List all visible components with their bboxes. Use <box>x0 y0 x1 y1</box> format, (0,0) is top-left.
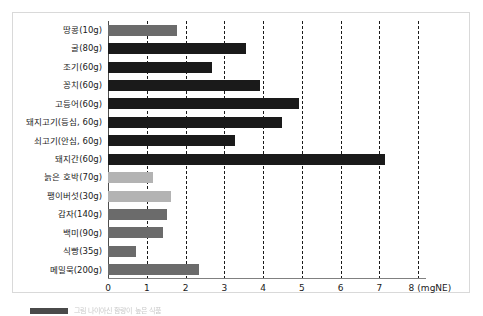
bar <box>108 43 246 54</box>
category-label: 조기(60g) <box>63 58 102 76</box>
x-tick-7: 7 <box>376 283 382 293</box>
bar <box>108 264 199 275</box>
category-label: 식빵(35g) <box>63 242 102 260</box>
x-tick-1: 1 <box>144 283 150 293</box>
bar <box>108 191 171 202</box>
x-tick-value: 0 <box>105 283 111 293</box>
x-tick-value: 1 <box>144 283 150 293</box>
category-label: 팽이버섯(30g) <box>47 187 102 205</box>
x-axis-unit-label: (mgNE) <box>417 283 451 293</box>
category-label: 백미(90g) <box>63 224 102 242</box>
bar <box>108 172 153 183</box>
bar-row: 팽이버섯(30g) <box>108 187 426 205</box>
caption-swatch <box>30 308 68 314</box>
caption-text: 그림 나이아신 함량이 높은 식품 <box>74 305 161 315</box>
bar-row: 굴(80g) <box>108 39 426 57</box>
bar-row: 돼지간(60g) <box>108 150 426 168</box>
category-label: 쇠고기(안심, 60g) <box>34 132 102 150</box>
x-tick-value: 4 <box>260 283 266 293</box>
bar-row: 늙은 호박(70g) <box>108 168 426 186</box>
plot-area: 땅콩(10g)굴(80g)조기(60g)꽁치(60g)고등어(60g)돼지고기(… <box>108 21 426 279</box>
x-tick-8: 8(mgNE) <box>409 283 452 293</box>
x-tick-value: 6 <box>338 283 344 293</box>
category-label: 돼지간(60g) <box>55 150 102 168</box>
x-tick-4: 4 <box>260 283 266 293</box>
bar-row: 감자(140g) <box>108 205 426 223</box>
chart-frame: 땅콩(10g)굴(80g)조기(60g)꽁치(60g)고등어(60g)돼지고기(… <box>12 12 470 293</box>
bar <box>108 154 385 165</box>
caption-strip: 그림 나이아신 함량이 높은 식품 <box>0 303 483 316</box>
category-label: 돼지고기(등심, 60g) <box>26 113 102 131</box>
bar <box>108 209 167 220</box>
bar-row: 고등어(60g) <box>108 95 426 113</box>
bar-row: 조기(60g) <box>108 58 426 76</box>
category-label: 감자(140g) <box>58 205 102 223</box>
x-tick-0: 0 <box>105 283 111 293</box>
x-axis-tick-labels: 012345678(mgNE) <box>108 283 426 299</box>
x-tick-value: 2 <box>183 283 189 293</box>
x-axis-line <box>108 278 426 279</box>
figure-root: 땅콩(10g)굴(80g)조기(60g)꽁치(60g)고등어(60g)돼지고기(… <box>0 0 483 316</box>
bar-row: 땅콩(10g) <box>108 21 426 39</box>
x-tick-2: 2 <box>183 283 189 293</box>
bar <box>108 135 235 146</box>
x-tick-5: 5 <box>299 283 305 293</box>
x-tick-6: 6 <box>338 283 344 293</box>
x-tick-3: 3 <box>221 283 227 293</box>
category-label: 굴(80g) <box>71 39 102 57</box>
bar-row: 쇠고기(안심, 60g) <box>108 132 426 150</box>
bar <box>108 98 299 109</box>
bar-row: 돼지고기(등심, 60g) <box>108 113 426 131</box>
x-tick-value: 7 <box>376 283 382 293</box>
bar-rows: 땅콩(10g)굴(80g)조기(60g)꽁치(60g)고등어(60g)돼지고기(… <box>108 21 426 279</box>
bar-row: 백미(90g) <box>108 224 426 242</box>
bar <box>108 246 136 257</box>
category-label: 땅콩(10g) <box>63 21 102 39</box>
bar-row: 꽁치(60g) <box>108 76 426 94</box>
bar <box>108 25 177 36</box>
bar <box>108 117 282 128</box>
bar-row: 메밀묵(200g) <box>108 261 426 279</box>
bar <box>108 227 163 238</box>
x-tick-value: 8 <box>409 283 415 293</box>
bar-row: 식빵(35g) <box>108 242 426 260</box>
bar <box>108 62 212 73</box>
bar <box>108 80 260 91</box>
x-tick-value: 5 <box>299 283 305 293</box>
category-label: 고등어(60g) <box>55 95 102 113</box>
x-tick-value: 3 <box>221 283 227 293</box>
category-label: 늙은 호박(70g) <box>44 168 102 186</box>
category-label: 메밀묵(200g) <box>50 261 102 279</box>
category-label: 꽁치(60g) <box>63 76 102 94</box>
